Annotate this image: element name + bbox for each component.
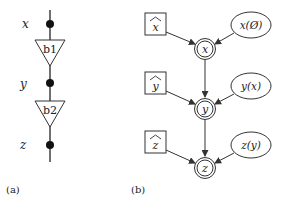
var-label-x: x bbox=[22, 17, 29, 31]
edge-prior-z bbox=[215, 153, 234, 163]
prior-label-x: x(Ø) bbox=[240, 19, 263, 31]
edge-prior-y bbox=[215, 94, 234, 104]
var-label-z: z bbox=[19, 138, 27, 152]
node-dot-y bbox=[46, 79, 54, 87]
prior-label-z: z(y) bbox=[240, 139, 261, 151]
node-dot-z bbox=[46, 141, 54, 149]
edge-obs-x bbox=[166, 32, 195, 44]
obs-label-x: x bbox=[152, 21, 159, 34]
panel-a: b1 b2 x y z (a) bbox=[6, 10, 65, 195]
caption-a: (a) bbox=[6, 184, 20, 195]
edge-obs-y bbox=[166, 91, 195, 104]
state-label-y: y bbox=[201, 103, 209, 116]
prior-label-y: y(x) bbox=[240, 80, 261, 92]
edge-prior-x bbox=[215, 33, 234, 44]
state-label-z: z bbox=[201, 162, 208, 175]
var-label-y: y bbox=[19, 77, 27, 91]
caption-b: (b) bbox=[131, 184, 145, 195]
diagram-canvas: b1 b2 x y z (a) x x(Ø) y y(x) z z(y) bbox=[0, 0, 292, 205]
state-label-x: x bbox=[202, 43, 209, 56]
panel-b: x x(Ø) y y(x) z z(y) x y z bbox=[131, 12, 271, 195]
obs-label-y: y bbox=[151, 80, 159, 93]
block-b2-label: b2 bbox=[43, 104, 57, 117]
node-dot-x bbox=[46, 20, 54, 28]
obs-label-z: z bbox=[152, 139, 159, 152]
block-b1-label: b1 bbox=[43, 43, 57, 56]
edge-obs-z bbox=[166, 150, 195, 163]
